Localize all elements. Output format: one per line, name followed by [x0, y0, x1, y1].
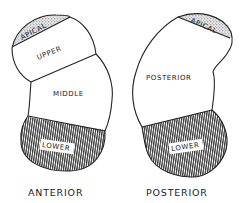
label-posterior-posterior: POSTERIOR	[146, 74, 192, 82]
caption-anterior: ANTERIOR	[28, 187, 83, 198]
posterior-view: APICAL POSTERIOR LOWER POSTERIOR	[120, 0, 242, 203]
label-anterior-upper: UPPER	[36, 45, 63, 62]
lung-segments-diagram: APICAL UPPER MIDDLE LOWER ANTERIOR APICA…	[0, 0, 242, 203]
label-anterior-middle: MIDDLE	[53, 90, 84, 98]
anterior-view: APICAL UPPER MIDDLE LOWER ANTERIOR	[0, 0, 130, 203]
caption-posterior: POSTERIOR	[146, 187, 208, 198]
